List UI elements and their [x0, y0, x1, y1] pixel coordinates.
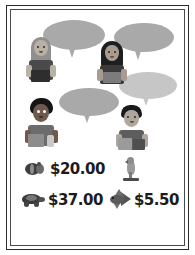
boy-curly-held-box: [28, 134, 44, 147]
girl-blonde-mouth: [39, 51, 43, 53]
speech-bubble-3: [59, 88, 119, 116]
character-boy-curly: [25, 98, 59, 148]
hamster-stripe: [30, 164, 34, 174]
girl-blonde-head: [34, 40, 48, 56]
parrot-perch: [123, 178, 139, 181]
boy-short-hair-held-box-2: [133, 139, 145, 150]
price-item-hamster[interactable]: $20.00: [25, 162, 105, 177]
worksheet-content: $20.00: [11, 10, 184, 245]
price-row-1: $20.00: [25, 157, 180, 181]
character-girl-blonde: [25, 37, 57, 85]
price-item-parrot[interactable]: [123, 157, 143, 181]
girl-blonde-arm-right: [50, 65, 56, 77]
parrot-icon: [123, 157, 139, 181]
girl-blonde-held-box: [31, 70, 50, 82]
boy-curly-held-bottle: [47, 135, 54, 147]
boy-short-hair-mouth: [130, 121, 134, 123]
boy-curly-eye-left: [37, 110, 40, 113]
boy-curly-eye-right: [43, 110, 46, 113]
turtle-price: $37.00: [48, 193, 103, 208]
fish-price: $5.50: [134, 193, 179, 208]
girl-dark-hair-held-box: [103, 72, 121, 83]
hamster-price: $20.00: [50, 162, 105, 177]
turtle-leg-back: [24, 202, 29, 207]
hamster-ear: [37, 162, 41, 166]
fish-eye: [112, 197, 114, 199]
speech-bubble-3-tail: [83, 112, 91, 123]
speech-bubble-2-tail: [134, 48, 142, 60]
price-item-turtle[interactable]: $37.00: [19, 193, 103, 208]
turtle-leg-front: [34, 202, 39, 207]
boy-short-hair-head: [124, 110, 139, 127]
turtle-icon: [19, 193, 45, 208]
parrot-beak: [125, 160, 128, 164]
price-row-2: $37.00 $5.50: [19, 188, 184, 212]
boy-curly-head: [33, 104, 49, 122]
price-item-fish[interactable]: $5.50: [105, 190, 179, 210]
girl-dark-hair-arm-right: [121, 69, 127, 81]
character-boy-short-hair: [115, 105, 149, 153]
girl-dark-hair-mouth: [110, 56, 114, 58]
boy-short-hair-held-box: [118, 138, 132, 150]
turtle-shell-highlight: [26, 195, 37, 201]
turtle-head: [38, 197, 45, 202]
character-girl-dark-hair: [96, 41, 128, 89]
parrot-head: [127, 157, 134, 164]
worksheet-page: $20.00: [0, 0, 195, 255]
speech-bubble-1-tail: [68, 46, 76, 58]
fish-icon: [105, 190, 131, 210]
hamster-icon: [25, 162, 45, 176]
girl-dark-hair-head: [105, 45, 119, 61]
boy-curly-mouth: [39, 116, 43, 118]
